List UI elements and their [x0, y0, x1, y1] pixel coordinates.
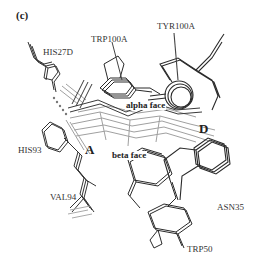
- panel-label: (c): [16, 10, 28, 21]
- trp100a-residue: [100, 42, 160, 98]
- trp50-residue: [148, 180, 192, 248]
- residue-label-his93: HIS93: [18, 146, 42, 155]
- residue-label-asn35: ASN35: [217, 203, 244, 212]
- alpha-face-label: alpha face: [125, 101, 166, 110]
- tyr100a-residue: [148, 33, 224, 110]
- ring-label-a: A: [85, 143, 94, 156]
- ligand-plane-dark: [68, 80, 202, 116]
- ring-label-d: D: [199, 122, 208, 135]
- hbond-dots: [53, 97, 67, 115]
- val94-light: [68, 206, 92, 218]
- residue-label-trp50: TRP50: [187, 245, 213, 254]
- residue-label-val94: VAL94: [50, 193, 76, 202]
- beta-face-label: beta face: [111, 151, 147, 160]
- residue-label-trp100a: TRP100A: [91, 35, 128, 44]
- residue-label-tyr100a: TYR100A: [157, 22, 195, 31]
- residue-label-his27d: HIS27D: [43, 48, 73, 57]
